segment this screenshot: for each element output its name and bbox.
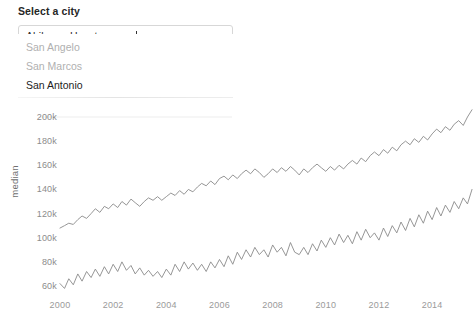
widget-label: Select a city [18,4,233,18]
x-tick-2010: 2010 [315,300,336,310]
x-tick-2008: 2008 [262,300,283,310]
dropdown-option-2[interactable]: San Antonio [18,76,233,95]
series-line-abilene [60,189,472,288]
dropdown-option-0[interactable]: San Angelo [18,38,233,57]
x-axis-tick-labels: 20002002200420062008201020122014 [0,300,473,316]
x-tick-2002: 2002 [103,300,124,310]
x-tick-2006: 2006 [209,300,230,310]
city-suggestions-dropdown[interactable]: San AngeloSan MarcosSan Antonio [18,34,233,97]
series-line-houston [60,110,472,228]
x-tick-2004: 2004 [156,300,177,310]
dropdown-option-1[interactable]: San Marcos [18,57,233,76]
x-tick-2000: 2000 [50,300,71,310]
city-select-widget: Select a city Abilene Houston san San An… [18,4,233,47]
dropdown-bottom-edge [18,97,233,98]
app-root: median 60k80k100k120k140k160k180k200k 20… [0,0,473,325]
x-tick-2014: 2014 [422,300,443,310]
x-tick-2012: 2012 [369,300,390,310]
